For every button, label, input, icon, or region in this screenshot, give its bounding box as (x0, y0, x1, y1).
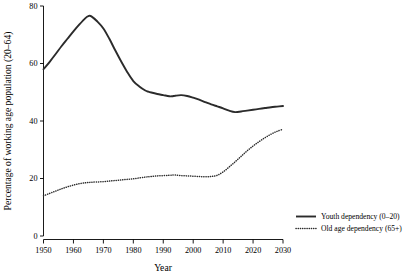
x-tick-label: 2020 (245, 246, 261, 255)
chart-figure: 020406080 195019601970198019902000201020… (0, 0, 407, 276)
legend-label-youth-dependency: Youth dependency (0–20) (321, 212, 400, 221)
x-tick-label: 1980 (125, 246, 141, 255)
x-tick-label: 1960 (65, 246, 81, 255)
x-axis-ticks: 195019601970198019902000201020202030 (35, 240, 291, 255)
x-tick-label: 1970 (95, 246, 111, 255)
x-tick-label: 2000 (185, 246, 201, 255)
y-tick-label: 40 (29, 117, 37, 126)
y-tick-label: 80 (29, 2, 37, 11)
series-line-youth-dependency (44, 16, 284, 112)
y-tick-label: 0 (33, 232, 37, 241)
x-tick-label: 2010 (215, 246, 231, 255)
series-layer (44, 16, 284, 196)
y-axis-ticks: 020406080 (29, 2, 43, 241)
y-tick-label: 60 (29, 59, 37, 68)
y-tick-label: 20 (29, 174, 37, 183)
chart-legend: Youth dependency (0–20) Old age dependen… (296, 212, 402, 233)
x-axis-title: Year (154, 262, 172, 273)
y-axis-title: Percentage of working age population (20… (2, 32, 14, 211)
x-tick-label: 2030 (275, 246, 291, 255)
series-line-old-age-dependency (44, 129, 284, 195)
legend-label-old-age-dependency: Old age dependency (65+) (321, 224, 402, 233)
dependency-ratio-line-chart: 020406080 195019601970198019902000201020… (0, 0, 407, 276)
x-tick-label: 1990 (155, 246, 171, 255)
x-tick-label: 1950 (35, 246, 51, 255)
